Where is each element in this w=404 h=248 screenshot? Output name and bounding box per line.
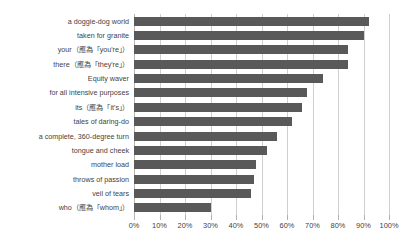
tick-mark-50 <box>262 215 263 220</box>
bar-row <box>134 45 348 54</box>
category-label: who（應為「whom」） <box>0 203 129 212</box>
tick-mark-0 <box>134 215 135 220</box>
tick-mark-30 <box>211 215 212 220</box>
bar <box>134 132 277 141</box>
bar <box>134 146 267 155</box>
tick-mark-40 <box>236 215 237 220</box>
bar-row <box>134 17 369 26</box>
gridline-100 <box>389 14 390 215</box>
plot-area <box>134 14 389 215</box>
tick-mark-10 <box>160 215 161 220</box>
x-axis-label: 70% <box>305 221 320 231</box>
category-label: tales of daring-do <box>0 117 129 126</box>
bar-row <box>134 88 307 97</box>
x-axis-label: 10% <box>152 221 167 231</box>
category-label: veil of tears <box>0 189 129 198</box>
bar-row <box>134 31 364 40</box>
category-axis-labels: a doggie-dog worldtaken for graniteyour（… <box>0 14 129 215</box>
x-axis-label: 90% <box>356 221 371 231</box>
bar-row <box>134 160 256 169</box>
bar <box>134 203 211 212</box>
bar <box>134 175 254 184</box>
bar-row <box>134 103 302 112</box>
bar <box>134 74 323 83</box>
tick-mark-70 <box>313 215 314 220</box>
x-axis-label: 50% <box>254 221 269 231</box>
tick-mark-20 <box>185 215 186 220</box>
category-label: a complete, 360-degree turn <box>0 132 129 141</box>
x-axis-label: 20% <box>178 221 193 231</box>
category-label: a doggie-dog world <box>0 17 129 26</box>
x-axis-label: 60% <box>280 221 295 231</box>
category-label: Equity waver <box>0 74 129 83</box>
category-label: taken for granite <box>0 31 129 40</box>
bar-row <box>134 60 348 69</box>
bar <box>134 117 292 126</box>
x-axis-tick-marks <box>134 215 389 220</box>
tick-mark-90 <box>364 215 365 220</box>
bar-row <box>134 132 277 141</box>
x-axis-tick-labels: 0%10%20%30%40%50%60%70%80%90%100% <box>134 221 389 235</box>
x-axis-label: 40% <box>229 221 244 231</box>
bar <box>134 88 307 97</box>
x-axis-label: 100% <box>380 221 399 231</box>
bar <box>134 17 369 26</box>
bar <box>134 60 348 69</box>
category-label: your（應為「you're」） <box>0 45 129 54</box>
bar-series <box>134 14 389 215</box>
category-label: mother load <box>0 160 129 169</box>
x-axis-label: 80% <box>331 221 346 231</box>
bar-row <box>134 117 292 126</box>
bar <box>134 31 364 40</box>
category-label: its（應為「it's」） <box>0 103 129 112</box>
bar-row <box>134 175 254 184</box>
category-label: tongue and cheek <box>0 146 129 155</box>
category-label: throws of passion <box>0 175 129 184</box>
bar-row <box>134 74 323 83</box>
bar <box>134 45 348 54</box>
bar <box>134 103 302 112</box>
x-axis-label: 30% <box>203 221 218 231</box>
x-axis-label: 0% <box>129 221 140 231</box>
category-label: for all intensive purposes <box>0 88 129 97</box>
horizontal-bar-chart: a doggie-dog worldtaken for graniteyour（… <box>0 0 404 248</box>
tick-mark-60 <box>287 215 288 220</box>
bar <box>134 189 251 198</box>
category-label: there（應為「they're」） <box>0 60 129 69</box>
bar-row <box>134 146 267 155</box>
tick-mark-80 <box>338 215 339 220</box>
tick-mark-100 <box>389 215 390 220</box>
bar-row <box>134 189 251 198</box>
bar-row <box>134 203 211 212</box>
bar <box>134 160 256 169</box>
